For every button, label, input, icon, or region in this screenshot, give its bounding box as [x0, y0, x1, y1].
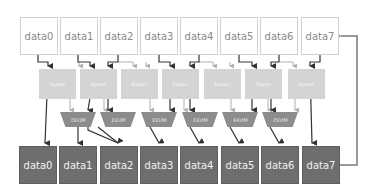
output-data1: data1 [59, 146, 97, 184]
input-data5: data5 [220, 17, 258, 55]
swap-block-5: swap5 [245, 69, 282, 99]
output-data3: data3 [140, 146, 178, 184]
swap-block-0: swap0 [39, 69, 76, 99]
mux-0: MUX0 [60, 112, 96, 127]
input-data2: data2 [100, 17, 138, 55]
mux-label: MUX3 [193, 117, 208, 123]
swap-label: swap3 [172, 81, 188, 87]
swap-block-2: swap2 [121, 69, 158, 99]
output-data2: data2 [100, 146, 138, 184]
swap-label: swap4 [214, 81, 230, 87]
input-data6: data6 [260, 17, 298, 55]
mux-label: MUX1 [111, 117, 126, 123]
input-data1: data1 [60, 17, 98, 55]
mux-label: MUX5 [273, 117, 288, 123]
swap-block-3: swap3 [162, 69, 199, 99]
mux-5: MUX5 [262, 112, 298, 127]
swap-label: swap2 [131, 81, 147, 87]
input-data7: data7 [301, 17, 339, 55]
output-data0: data0 [19, 146, 57, 184]
mux-2: MUX2 [141, 112, 177, 127]
swap-label: swap0 [49, 81, 65, 87]
input-data0: data0 [20, 17, 58, 55]
mux-label: MUX2 [152, 117, 167, 123]
swap-label: swap1 [90, 81, 106, 87]
mux-label: MUX4 [233, 117, 248, 123]
output-data5: data5 [221, 146, 259, 184]
output-data7: data7 [302, 146, 340, 184]
swap-block-4: swap4 [204, 69, 241, 99]
input-data3: data3 [140, 17, 178, 55]
mux-4: MUX4 [222, 112, 258, 127]
mux-label: MUX0 [71, 117, 86, 123]
input-data4: data4 [180, 17, 218, 55]
swap-label: swap5 [255, 81, 271, 87]
output-data4: data4 [180, 146, 218, 184]
mux-3: MUX3 [182, 112, 218, 127]
output-data6: data6 [261, 146, 299, 184]
swap-block-6: swap6 [288, 69, 325, 99]
swap-block-1: swap1 [80, 69, 117, 99]
swap-label: swap6 [298, 81, 314, 87]
mux-1: MUX1 [100, 112, 136, 127]
